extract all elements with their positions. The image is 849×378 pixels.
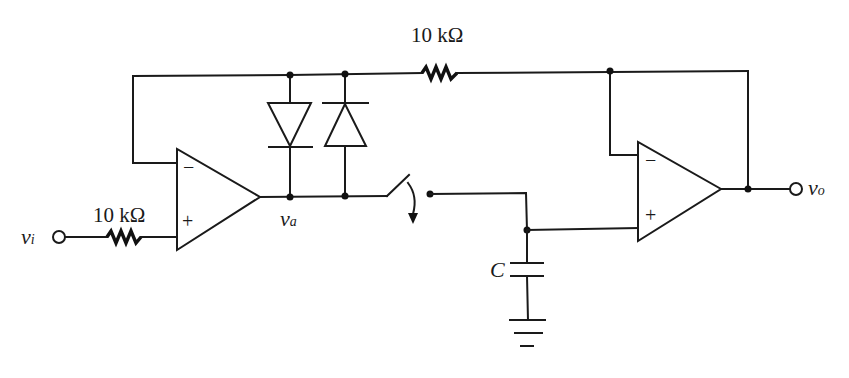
diode-1	[268, 75, 312, 197]
wire-to-opamp2-plus	[527, 228, 638, 230]
resistor-feedback	[422, 67, 457, 79]
wire-top-left	[290, 73, 422, 75]
input-resistor-label: 10 kΩ	[93, 203, 145, 228]
junction-dot	[287, 194, 294, 201]
schematic-drawing	[0, 0, 849, 378]
junction-dot	[745, 186, 752, 193]
opamp2-minus-sign: −	[645, 149, 656, 172]
input-terminal	[53, 231, 65, 243]
wire-switch-to-cap	[430, 193, 527, 230]
wire-opamp1-minus-feedback	[133, 75, 290, 163]
diode-2	[323, 74, 368, 196]
opamp1-plus-sign: +	[182, 210, 193, 233]
capacitor-label: C	[490, 257, 505, 283]
junction-dot	[607, 68, 614, 75]
circuit-diagram: − + − + 10 kΩ 10 kΩ C vi va vo	[0, 0, 849, 378]
capacitor	[511, 230, 543, 320]
output-node-label: vo	[808, 175, 825, 201]
switch	[387, 175, 434, 224]
junction-dot	[287, 72, 294, 79]
resistor-input	[107, 231, 141, 243]
ground-icon	[510, 320, 545, 346]
junction-dot	[342, 71, 349, 78]
va-node-label: va	[280, 206, 297, 232]
junction-dot	[342, 193, 349, 200]
output-terminal	[790, 183, 802, 195]
wire-opamp2-minus-feedback	[610, 71, 638, 155]
feedback-resistor-label: 10 kΩ	[411, 23, 463, 48]
wire-va	[260, 196, 387, 197]
wire-top-right	[457, 71, 748, 73]
input-node-label: vi	[21, 224, 35, 250]
opamp1-minus-sign: −	[183, 156, 194, 179]
opamp2-plus-sign: +	[645, 204, 656, 227]
